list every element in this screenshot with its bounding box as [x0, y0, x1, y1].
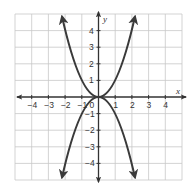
- y-axis-label: y: [102, 14, 107, 24]
- x-tick-label: −4: [28, 100, 38, 110]
- x-tick-label: 3: [147, 100, 152, 110]
- x-tick-label: −3: [44, 100, 54, 110]
- y-tick-label: 1: [89, 75, 94, 85]
- x-tick-label: 4: [163, 100, 168, 110]
- y-tick-label: −1: [85, 109, 95, 119]
- y-tick-label: −3: [85, 142, 95, 152]
- y-tick-label: 4: [89, 26, 94, 36]
- coordinate-plane: y x −4 −3 −2 −1 0 1 2 3 4 4 3 2 1 −1 −2 …: [0, 0, 194, 192]
- x-tick-label: 1: [113, 100, 118, 110]
- x-axis-label: x: [175, 86, 180, 96]
- x-tick-label: −2: [61, 100, 71, 110]
- x-tick-label: 2: [130, 100, 135, 110]
- y-tick-label: −4: [85, 158, 95, 168]
- y-tick-label: 2: [89, 59, 94, 69]
- y-tick-label: 3: [89, 42, 94, 52]
- y-tick-label: −2: [85, 125, 95, 135]
